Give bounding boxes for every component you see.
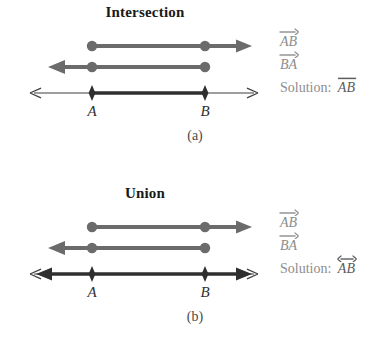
union-diagram: A B (0, 207, 290, 307)
label-solution: Solution: AB (280, 261, 355, 276)
label-solution: Solution: AB (280, 80, 355, 95)
ray-ab-graphic (87, 40, 252, 53)
point-label-b: B (200, 103, 209, 119)
notation-labels: AB BA Solution: (280, 207, 375, 307)
solution-axis-graphic (30, 85, 258, 101)
point-label-a: A (86, 284, 97, 300)
point-label-b: B (200, 284, 209, 300)
solution-prefix: Solution: (280, 80, 331, 95)
figure-intersection: Intersection (0, 0, 375, 181)
intersection-diagram: A B (0, 26, 290, 126)
notation-labels: AB BA Solution: (280, 26, 375, 126)
solution-prefix: Solution: (280, 261, 331, 276)
figure-union: Union (0, 181, 375, 362)
label-ray-ab: AB (280, 34, 297, 49)
point-label-a: A (86, 103, 97, 119)
figure-title: Intersection (0, 4, 290, 21)
label-ray-ba: BA (280, 57, 297, 72)
label-ray-ab: AB (280, 215, 297, 230)
label-ray-ba: BA (280, 238, 297, 253)
figure-caption: (b) (0, 309, 375, 325)
figure-title: Union (0, 185, 290, 202)
ray-ba-graphic (48, 241, 210, 255)
solution-axis-graphic (30, 266, 258, 282)
ray-ab-graphic (87, 221, 252, 234)
figure-caption: (a) (0, 128, 375, 144)
ray-ba-graphic (48, 60, 210, 74)
